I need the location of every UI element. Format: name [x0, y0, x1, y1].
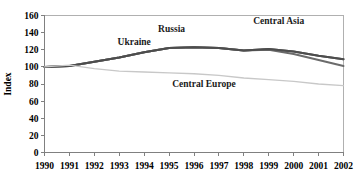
x-tick-label: 1995	[160, 161, 179, 171]
y-tick-label: 80	[29, 79, 39, 89]
y-tick-label: 40	[29, 114, 39, 124]
x-tick-label: 1993	[110, 161, 129, 171]
y-tick-label: 120	[24, 45, 39, 55]
x-tick-label: 1994	[135, 161, 154, 171]
x-tick-label: 2000	[284, 161, 303, 171]
x-tick-label: 1999	[259, 161, 278, 171]
y-axis-ticks	[41, 16, 45, 153]
chart-container: 020406080100120140160 199019911992199319…	[0, 0, 356, 178]
x-tick-label: 2001	[309, 161, 328, 171]
y-axis-tick-labels: 020406080100120140160	[24, 11, 39, 158]
y-tick-label: 140	[24, 28, 39, 38]
x-tick-label: 1992	[85, 161, 104, 171]
x-tick-label: 1998	[234, 161, 253, 171]
line-chart: 020406080100120140160 199019911992199319…	[0, 0, 356, 178]
y-axis-title: Index	[3, 72, 13, 95]
x-tick-label: 1991	[60, 161, 79, 171]
y-tick-label: 0	[34, 148, 39, 158]
x-tick-label: 1990	[35, 161, 54, 171]
series-label-russia: Russia	[158, 24, 185, 34]
x-tick-label: 2002	[334, 161, 353, 171]
series-line-ukraine	[45, 47, 344, 67]
x-axis-tick-labels: 1990199119921993199419951996199719981999…	[35, 161, 353, 171]
x-axis-ticks	[45, 153, 344, 157]
x-tick-label: 1996	[185, 161, 204, 171]
y-tick-label: 100	[24, 62, 39, 72]
series-line-russia	[45, 47, 344, 67]
y-tick-label: 60	[29, 97, 39, 107]
y-tick-label: 160	[24, 11, 39, 21]
series-label-ukraine: Ukraine	[118, 37, 151, 47]
series-line-central-asia	[45, 47, 344, 67]
y-tick-label: 20	[29, 131, 39, 141]
x-tick-label: 1997	[209, 161, 228, 171]
series-label-central-asia: Central Asia	[253, 16, 304, 26]
series-label-central-europe: Central Europe	[172, 79, 235, 89]
